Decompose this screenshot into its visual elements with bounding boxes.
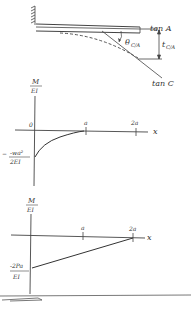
- y-axis-label-num: M: [31, 78, 40, 86]
- beam-diagram: tan A tan C θ C/A t C/A: [31, 6, 176, 88]
- y-annotation-num: -2Pa: [10, 262, 24, 269]
- y-axis-label-num: M: [27, 197, 36, 205]
- page-bottom-rule: [0, 295, 191, 301]
- tan-c-label: tan C: [152, 79, 174, 88]
- fixed-wall-icon: [31, 6, 35, 25]
- t-dimension: [138, 30, 162, 59]
- y-axis-label-den: EI: [30, 87, 38, 94]
- tick-2a: 2a: [130, 119, 139, 126]
- x-axis-label: x: [147, 233, 152, 242]
- beam: [36, 24, 140, 33]
- theta-label: θ: [125, 38, 130, 47]
- y-axis: [30, 214, 31, 294]
- moment-curve: [35, 131, 84, 157]
- moment-diagram-2: M EI a 2a x -2Pa EI: [10, 197, 152, 294]
- y-axis-label-den: EI: [26, 206, 34, 213]
- moment-diagram-1: M EI 0 a 2a x − -wa² 2EI: [2, 78, 158, 186]
- y-annotation-den: 2EI: [9, 158, 21, 165]
- tick-2a: 2a: [128, 225, 137, 232]
- minus-sign: −: [2, 150, 7, 157]
- tan-c-line: [102, 31, 162, 78]
- y-annotation-num: -wa²: [10, 149, 24, 156]
- diagram-canvas: tan A tan C θ C/A t C/A M EI 0 a 2a x − …: [0, 0, 191, 310]
- y-annotation-den: EI: [12, 273, 20, 280]
- moment-line: [32, 238, 133, 268]
- y-axis: [34, 96, 35, 186]
- x-axis-label: x: [153, 127, 158, 136]
- tick-a: a: [81, 224, 85, 231]
- tick-a: a: [84, 119, 88, 126]
- tan-a-label: tan A: [150, 24, 172, 33]
- t-subscript: C/A: [166, 44, 176, 50]
- theta-subscript: C/A: [131, 42, 141, 48]
- origin-label: 0: [29, 121, 33, 128]
